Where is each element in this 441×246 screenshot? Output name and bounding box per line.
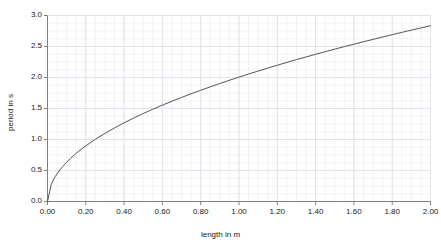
x-tick-label: 0.80	[181, 207, 221, 216]
x-tick-label: 0.40	[104, 207, 144, 216]
x-tick-label: 1.40	[296, 207, 336, 216]
y-tick-label: 3.0	[18, 10, 42, 19]
y-tick-label: 0.0	[18, 196, 42, 205]
y-tick-label: 2.5	[18, 41, 42, 50]
x-tick-label: 0.00	[28, 207, 68, 216]
y-axis-title: period in s	[6, 73, 15, 153]
x-tick-label: 1.00	[219, 207, 259, 216]
y-tick-label: 1.0	[18, 134, 42, 143]
x-tick-label: 1.60	[334, 207, 374, 216]
y-tick-label: 0.5	[18, 165, 42, 174]
x-tick-label: 2.00	[411, 207, 441, 216]
chart-container: length in m period in s 0.00.51.01.52.02…	[0, 0, 441, 246]
y-tick-label: 1.5	[18, 103, 42, 112]
x-tick-label: 0.60	[142, 207, 182, 216]
y-tick-label: 2.0	[18, 72, 42, 81]
x-tick-label: 1.80	[372, 207, 412, 216]
x-tick-label: 0.20	[66, 207, 106, 216]
x-axis-title: length in m	[0, 230, 441, 239]
x-tick-label: 1.20	[257, 207, 297, 216]
tick-marks	[44, 16, 431, 206]
